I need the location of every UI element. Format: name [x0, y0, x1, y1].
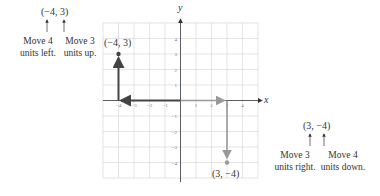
point-3-neg4 — [225, 160, 229, 164]
svg-text:1: 1 — [195, 103, 198, 108]
svg-text:1: 1 — [175, 83, 178, 88]
right-annotation-step2: Move 4 units down. — [318, 149, 368, 173]
svg-text:2: 2 — [210, 103, 213, 108]
left-annotation-step1: Move 4 units left. — [16, 35, 60, 59]
point-label-neg4-3: (−4, 3) — [104, 37, 131, 48]
point-label-3-neg4: (3, −4) — [212, 168, 239, 179]
right-annotation-point: (3, −4) — [303, 120, 330, 131]
left-annotation-point: (−4, 3) — [41, 6, 68, 17]
right-annotation-step1: Move 3 units right. — [270, 149, 320, 173]
svg-text:4: 4 — [175, 37, 178, 42]
svg-text:−1: −1 — [162, 103, 168, 108]
x-tick-labels: −4 −3 −2 −1 1 2 3 4 — [116, 103, 244, 108]
x-axis-label: x — [264, 94, 268, 105]
left-annotation-step2: Move 3 units up. — [60, 35, 100, 59]
svg-text:−2: −2 — [147, 103, 153, 108]
svg-text:3: 3 — [175, 52, 178, 57]
svg-text:4: 4 — [241, 103, 244, 108]
svg-text:−3: −3 — [172, 145, 178, 150]
svg-text:−3: −3 — [131, 103, 137, 108]
svg-text:2: 2 — [175, 68, 178, 73]
svg-text:−1: −1 — [172, 114, 178, 119]
svg-text:−4: −4 — [172, 161, 178, 166]
svg-text:−4: −4 — [116, 103, 122, 108]
svg-text:−2: −2 — [172, 130, 178, 135]
point-neg4-3 — [116, 52, 120, 56]
y-axis-label: y — [178, 2, 182, 13]
